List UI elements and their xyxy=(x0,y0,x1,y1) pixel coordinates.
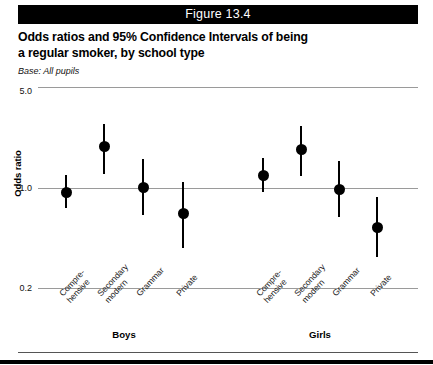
data-point-marker xyxy=(372,222,383,233)
x-axis-category-label: Grammar xyxy=(331,266,362,299)
x-label-line: Grammar xyxy=(134,265,166,298)
gridline-5.0 xyxy=(38,87,418,88)
x-axis-category-label: Compre-hensive xyxy=(255,268,291,305)
data-point-marker xyxy=(138,182,149,193)
gridline-0.2 xyxy=(38,288,418,289)
data-point-marker xyxy=(61,187,72,198)
y-tick-label-5.0: 5.0 xyxy=(6,86,32,96)
group-label-boys: Boys xyxy=(79,329,169,340)
figure-container: Figure 13.4 Odds ratios and 95% Confiden… xyxy=(0,0,433,365)
chart-plot-area: Odds ratio 5.01.00.2Compre-hensiveSecond… xyxy=(0,0,433,340)
y-axis-title: Odds ratio xyxy=(12,139,23,209)
footer-rule-thick xyxy=(0,360,433,364)
y-tick-label-1.0: 1.0 xyxy=(6,183,32,193)
data-point-marker xyxy=(334,184,345,195)
group-label-girls: Girls xyxy=(275,329,365,340)
x-label-line: Private xyxy=(368,272,393,298)
x-axis-category-label: Private xyxy=(369,273,394,299)
x-label-line: Private xyxy=(174,272,199,298)
data-point-marker xyxy=(296,144,307,155)
x-axis-category-label: Compre-hensive xyxy=(58,268,94,305)
x-label-line: Grammar xyxy=(330,265,362,298)
x-axis-category-label: Secondarymodern xyxy=(96,263,137,305)
gridline-1.0 xyxy=(38,188,418,189)
x-axis-category-label: Secondarymodern xyxy=(293,263,334,305)
y-tick-label-0.2: 0.2 xyxy=(6,283,32,293)
data-point-marker xyxy=(178,208,189,219)
x-axis-category-label: Grammar xyxy=(135,266,166,299)
x-axis-category-label: Private xyxy=(175,273,200,299)
data-point-marker xyxy=(99,141,110,152)
footer-rule-thin xyxy=(18,352,418,353)
data-point-marker xyxy=(258,170,269,181)
